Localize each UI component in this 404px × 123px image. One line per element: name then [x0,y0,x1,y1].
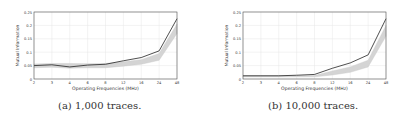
x-tick-label: 24 [157,81,162,85]
y-tick-label: 0.15 [233,37,241,41]
caption-b: (b) 10,000 traces. [268,100,358,111]
x-tick-label: 4 [69,81,72,85]
x-tick-label: 16 [139,81,144,85]
x-tick-label: 2 [242,81,244,85]
y-axis-label: Mutual Information [15,24,20,66]
x-tick-label: 12 [121,81,126,85]
chart-b: 00.050.10.150.20.252346812162448Operatin… [202,0,404,100]
x-tick-label: 16 [348,81,353,85]
x-axis-label: Operating Frequencies (MHz) [281,86,348,91]
x-tick-label: 48 [175,81,180,85]
y-tick-label: 0.1 [235,51,241,55]
y-tick-label: 0.25 [24,11,32,15]
x-tick-label: 48 [384,81,389,85]
y-tick-label: 0.1 [26,51,32,55]
y-tick-label: 0.15 [24,37,32,41]
x-tick-label: 3 [51,81,53,85]
x-tick-label: 8 [104,81,107,85]
x-tick-label: 8 [313,81,316,85]
x-tick-label: 24 [366,81,371,85]
chart-a: 00.050.10.150.20.252346812162448Operatin… [0,0,202,100]
y-tick-label: 0.2 [235,24,241,28]
y-tick-label: 0.05 [24,64,32,68]
x-tick-label: 3 [260,81,262,85]
y-tick-label: 0.05 [233,64,241,68]
x-tick-label: 12 [330,81,335,85]
caption-a: (a) 1,000 traces. [58,100,141,111]
x-tick-label: 6 [86,81,89,85]
x-tick-label: 2 [33,81,35,85]
chart-panel-b: 00.050.10.150.20.252346812162448Operatin… [202,0,404,123]
x-axis-label: Operating Frequencies (MHz) [72,86,139,91]
y-tick-label: 0.2 [26,24,32,28]
y-axis-label: Mutual Information [224,24,229,66]
x-tick-label: 4 [278,81,281,85]
chart-panel-a: 00.050.10.150.20.252346812162448Operatin… [0,0,202,123]
x-tick-label: 6 [295,81,298,85]
y-tick-label: 0.25 [233,11,241,15]
